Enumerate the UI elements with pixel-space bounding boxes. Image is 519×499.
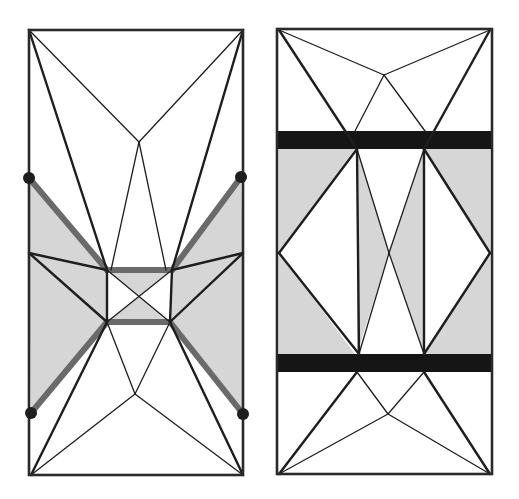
marker-dot-icon: [237, 408, 249, 420]
marker-dot-icon: [235, 171, 247, 183]
marker-dot-icon: [23, 172, 35, 184]
marker-dot-icon: [25, 407, 37, 419]
diagram-canvas: [0, 0, 519, 499]
right-shaded-regions: [279, 149, 490, 354]
right-crease-diagram: [277, 29, 492, 474]
left-crease-diagram: [23, 30, 249, 475]
top-band: [277, 131, 492, 149]
bottom-band: [277, 354, 492, 372]
